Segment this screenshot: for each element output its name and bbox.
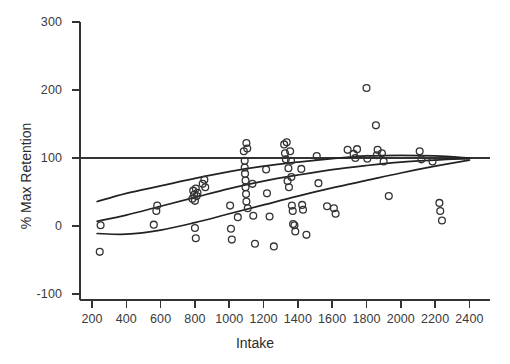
data-point	[150, 221, 157, 228]
scatter-chart: -100010020030020040060080010001200140016…	[0, 0, 510, 364]
x-tick-label-2200: 2200	[421, 312, 449, 326]
lower-curve	[97, 160, 469, 234]
data-point	[303, 231, 310, 238]
x-tick-label-600: 600	[150, 312, 171, 326]
data-point	[97, 222, 104, 229]
x-tick-label-1600: 1600	[318, 312, 346, 326]
data-point	[227, 202, 234, 209]
x-tick-label-2400: 2400	[455, 312, 483, 326]
data-point	[243, 198, 250, 205]
y-axis-title: % Max Retention	[18, 96, 34, 256]
data-point	[266, 213, 273, 220]
x-tick-label-800: 800	[184, 312, 205, 326]
fitted-curves-layer	[97, 155, 469, 234]
data-point	[416, 148, 423, 155]
x-tick-label-1400: 1400	[284, 312, 312, 326]
data-point	[324, 203, 331, 210]
data-point	[354, 146, 361, 153]
data-point	[373, 122, 380, 129]
data-point	[298, 165, 305, 172]
data-point	[436, 199, 443, 206]
data-point	[418, 156, 425, 163]
data-point	[96, 248, 103, 255]
data-point	[285, 165, 292, 172]
data-point	[429, 158, 436, 165]
data-point	[270, 243, 277, 250]
x-tick-label-200: 200	[81, 312, 102, 326]
x-tick-label-1800: 1800	[352, 312, 380, 326]
data-point	[439, 217, 446, 224]
data-point	[363, 85, 370, 92]
data-point	[315, 180, 322, 187]
data-point	[228, 236, 235, 243]
x-axis-title: Intake	[0, 335, 510, 351]
x-tick-label-1200: 1200	[249, 312, 277, 326]
data-point	[252, 240, 259, 247]
y-tick-label--100: -100	[10, 287, 62, 301]
data-point	[192, 225, 199, 232]
data-point	[437, 208, 444, 215]
data-point	[228, 225, 235, 232]
data-point	[242, 177, 249, 184]
x-tick-label-2000: 2000	[387, 312, 415, 326]
plot-area	[0, 0, 510, 364]
y-tick-label-300: 300	[10, 15, 62, 29]
data-point	[385, 193, 392, 200]
data-point	[264, 190, 271, 197]
data-point	[234, 214, 241, 221]
data-point	[192, 235, 199, 242]
data-point	[263, 166, 270, 173]
data-point	[201, 176, 208, 183]
x-tick-label-400: 400	[116, 312, 137, 326]
data-points-layer	[96, 85, 445, 256]
x-tick-label-1000: 1000	[215, 312, 243, 326]
data-point	[250, 212, 257, 219]
axes-layer	[72, 22, 490, 308]
data-point	[300, 206, 307, 213]
y-tick-label-200: 200	[10, 83, 62, 97]
data-point	[243, 191, 250, 198]
